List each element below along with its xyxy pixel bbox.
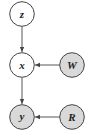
node-z-label: z xyxy=(19,8,25,20)
node-x: x xyxy=(10,53,35,78)
node-y-label: y xyxy=(18,110,25,122)
node-x-label: x xyxy=(18,59,25,71)
node-W-label: W xyxy=(67,59,78,71)
node-y: y xyxy=(10,105,35,130)
node-R-label: R xyxy=(67,111,75,123)
node-R: R xyxy=(60,105,85,130)
graphical-model-diagram: z x W y R xyxy=(0,0,88,138)
node-z: z xyxy=(10,2,35,27)
node-W: W xyxy=(60,53,85,78)
